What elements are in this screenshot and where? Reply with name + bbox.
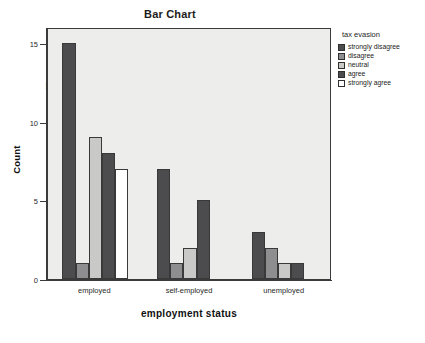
bar	[278, 263, 291, 279]
bar	[252, 232, 265, 279]
bar	[102, 153, 115, 279]
legend-item-label: strongly agree	[348, 79, 391, 87]
bar	[197, 200, 210, 279]
bar	[183, 248, 196, 280]
bar	[157, 169, 170, 279]
legend-item: strongly agree	[338, 79, 424, 87]
legend-swatch-icon	[338, 71, 345, 78]
bar-chart-figure: Bar Chart 051015 Count employedself-empl…	[0, 0, 425, 343]
bar	[115, 169, 128, 279]
y-axis-tick-label: 0	[34, 276, 38, 285]
legend-title: tax evasion	[342, 30, 424, 39]
y-axis-tick-label: 5	[34, 197, 38, 206]
bar	[265, 248, 278, 280]
legend-item-label: strongly disagree	[348, 43, 400, 51]
legend-item: neutral	[338, 61, 424, 69]
y-axis-tick	[40, 44, 47, 45]
bar	[89, 137, 102, 279]
y-axis-tick-label: 10	[30, 118, 38, 127]
legend-swatch-icon	[338, 53, 345, 60]
plot-area	[47, 28, 331, 280]
legend-items: strongly disagreedisagreeneutralagreestr…	[338, 43, 424, 87]
legend-item-label: disagree	[348, 52, 374, 60]
legend-swatch-icon	[338, 62, 345, 69]
y-axis-tick	[40, 123, 47, 124]
chart-title: Bar Chart	[0, 8, 340, 20]
bars-container	[48, 29, 330, 279]
y-axis-tick	[40, 201, 47, 202]
y-axis-tick	[40, 280, 47, 281]
x-axis-category-label: self-employed	[149, 286, 229, 295]
bar	[291, 263, 304, 279]
legend-item: strongly disagree	[338, 43, 424, 51]
x-axis-title: employment status	[47, 308, 331, 319]
legend-item: disagree	[338, 52, 424, 60]
y-axis-title: Count	[11, 130, 22, 190]
legend-swatch-icon	[338, 80, 345, 87]
x-axis-category-label: unemployed	[244, 286, 324, 295]
legend-item-label: agree	[348, 70, 365, 78]
legend-item-label: neutral	[348, 61, 369, 69]
y-axis-tick-label: 15	[30, 39, 38, 48]
bar	[62, 43, 75, 279]
legend: tax evasion strongly disagreedisagreeneu…	[338, 30, 424, 88]
bar	[76, 263, 89, 279]
legend-swatch-icon	[338, 44, 345, 51]
bar	[170, 263, 183, 279]
x-axis-line	[46, 280, 332, 281]
legend-item: agree	[338, 70, 424, 78]
x-axis-category-label: employed	[54, 286, 134, 295]
